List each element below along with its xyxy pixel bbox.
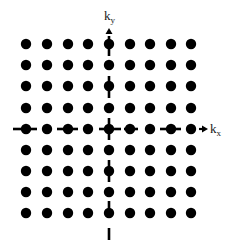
lattice-point <box>63 39 73 49</box>
ky-arrowhead-icon <box>106 28 113 34</box>
lattice-point <box>63 60 73 70</box>
lattice-point <box>83 60 93 70</box>
lattice-point <box>186 208 196 218</box>
lattice-point <box>125 103 135 113</box>
lattice-point <box>145 39 155 49</box>
lattice-point <box>83 166 93 176</box>
lattice-point <box>145 166 155 176</box>
lattice-point <box>42 166 52 176</box>
lattice-point <box>63 208 73 218</box>
lattice-point <box>83 187 93 197</box>
lattice-point <box>166 60 176 70</box>
lattice-point <box>145 208 155 218</box>
lattice-point <box>63 103 73 113</box>
lattice-point <box>42 81 52 91</box>
lattice-point <box>21 187 31 197</box>
lattice-point <box>125 81 135 91</box>
lattice-point <box>104 60 114 70</box>
lattice-point <box>186 187 196 197</box>
lattice-point <box>125 166 135 176</box>
lattice-point <box>166 166 176 176</box>
lattice-point <box>21 103 31 113</box>
lattice-point <box>83 145 93 155</box>
lattice-point <box>21 166 31 176</box>
ky-label-sub: y <box>111 15 116 25</box>
lattice-point <box>166 103 176 113</box>
lattice-point <box>42 103 52 113</box>
lattice-point <box>21 60 31 70</box>
ky-axis-label: ky <box>104 9 115 25</box>
lattice-point <box>21 81 31 91</box>
kx-axis-label: kx <box>210 122 221 138</box>
lattice-point <box>145 145 155 155</box>
lattice-point <box>83 39 93 49</box>
lattice-point <box>125 39 135 49</box>
lattice-point <box>83 81 93 91</box>
lattice-canvas <box>0 0 233 244</box>
lattice-point <box>42 145 52 155</box>
lattice-point <box>145 187 155 197</box>
lattice-point <box>186 103 196 113</box>
lattice-point <box>186 145 196 155</box>
lattice-point <box>42 60 52 70</box>
lattice-point <box>104 187 114 197</box>
lattice-point <box>42 187 52 197</box>
lattice-point <box>21 145 31 155</box>
lattice-point <box>63 187 73 197</box>
lattice-point <box>145 60 155 70</box>
lattice-point <box>125 60 135 70</box>
lattice-point <box>186 39 196 49</box>
lattice-point <box>104 103 114 113</box>
lattice-point <box>166 145 176 155</box>
lattice-point <box>63 145 73 155</box>
lattice-point <box>166 39 176 49</box>
lattice-point <box>63 166 73 176</box>
lattice-point <box>125 145 135 155</box>
lattice-point <box>166 208 176 218</box>
lattice-point <box>145 103 155 113</box>
lattice-point <box>83 103 93 113</box>
lattice-point <box>83 124 93 134</box>
lattice-point <box>166 187 176 197</box>
lattice-point <box>42 124 52 134</box>
kx-arrowhead-icon <box>202 126 208 133</box>
lattice-point <box>166 81 176 91</box>
lattice-point <box>186 124 196 134</box>
lattice-point <box>104 145 114 155</box>
k-space-diagram: ky kx <box>0 0 233 244</box>
lattice-point <box>145 124 155 134</box>
lattice-point <box>21 39 31 49</box>
lattice-point <box>145 81 155 91</box>
lattice-point <box>125 187 135 197</box>
kx-label-sub: x <box>217 128 222 138</box>
lattice-point <box>42 39 52 49</box>
lattice-point <box>186 81 196 91</box>
lattice-point <box>186 166 196 176</box>
ky-axis <box>106 28 113 240</box>
lattice-point <box>186 60 196 70</box>
lattice-point <box>125 208 135 218</box>
lattice-point <box>42 208 52 218</box>
lattice-point <box>21 208 31 218</box>
lattice-point <box>83 208 93 218</box>
lattice-point <box>63 81 73 91</box>
